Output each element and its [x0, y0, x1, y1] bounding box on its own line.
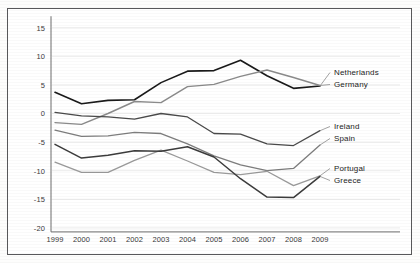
series-label-ireland: Ireland	[334, 122, 360, 131]
x-tick-label-2008: 2008	[285, 235, 302, 244]
y-tick-label--10: -10	[34, 167, 45, 176]
series-label-germany: Germany	[334, 80, 368, 89]
series-leader-greece	[320, 176, 330, 180]
y-tick-label-10: 10	[36, 52, 45, 61]
x-tick-label-2004: 2004	[179, 235, 196, 244]
series-label-portugal: Portugal	[334, 164, 365, 173]
x-tick-label-2009: 2009	[311, 235, 328, 244]
series-label-spain: Spain	[334, 134, 355, 143]
y-tick-label-5: 5	[41, 81, 45, 90]
y-tick-label--15: -15	[34, 195, 45, 204]
line-chart: 151050-5-10-15-2019992000200120022003200…	[0, 0, 420, 263]
chart-plot-area: 151050-5-10-15-2019992000200120022003200…	[0, 0, 420, 263]
x-tick-label-1999: 1999	[46, 235, 63, 244]
x-tick-label-2001: 2001	[99, 235, 116, 244]
series-leader-ireland	[320, 127, 330, 131]
series-leader-portugal	[320, 169, 330, 176]
series-line-portugal	[55, 150, 320, 185]
series-label-greece: Greece	[334, 176, 362, 185]
series-label-netherlands: Netherlands	[334, 68, 379, 77]
x-tick-label-2006: 2006	[232, 235, 249, 244]
x-tick-label-2003: 2003	[152, 235, 169, 244]
x-tick-label-2007: 2007	[258, 235, 275, 244]
series-line-ireland	[55, 112, 320, 145]
x-tick-label-2002: 2002	[126, 235, 143, 244]
series-line-netherlands	[55, 60, 320, 103]
series-leader-netherlands	[320, 73, 330, 87]
x-tick-label-2005: 2005	[205, 235, 222, 244]
y-tick-label--5: -5	[38, 138, 45, 147]
y-tick-label-0: 0	[41, 109, 45, 118]
x-tick-label-2000: 2000	[73, 235, 90, 244]
y-tick-label--20: -20	[34, 224, 45, 233]
y-tick-label-15: 15	[36, 24, 45, 33]
chart-figure: 151050-5-10-15-2019992000200120022003200…	[0, 0, 420, 263]
series-line-spain	[55, 130, 320, 171]
